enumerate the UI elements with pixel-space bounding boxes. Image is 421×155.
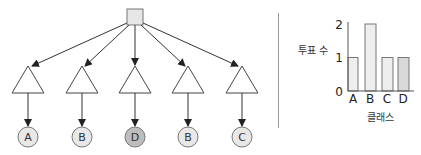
edge-root-tree-4 xyxy=(141,25,185,66)
tree-5-triangle xyxy=(226,66,258,93)
bar-D xyxy=(398,58,409,92)
tree-1-triangle xyxy=(12,66,44,93)
leaf-2-label: B xyxy=(78,131,86,144)
x-tick-B: B xyxy=(366,92,374,106)
trees xyxy=(12,66,258,93)
edge-root-tree-5 xyxy=(143,23,238,66)
x-tick-C: C xyxy=(383,92,391,106)
leaf-1-label: A xyxy=(24,131,32,144)
root-node xyxy=(127,9,143,25)
x-tick-A: A xyxy=(349,92,358,106)
leaf-4-label: B xyxy=(184,131,192,144)
tree-2-triangle xyxy=(66,66,98,93)
x-axis-title: 클래스 xyxy=(367,112,394,123)
bar-B xyxy=(365,24,376,91)
leaf-edges xyxy=(28,93,242,126)
tree-3-triangle xyxy=(119,66,151,93)
leaf-3-label: D xyxy=(131,131,139,144)
random-forest-diagram: A B D B C 투표 수 2 1 0 A B C D 클래스 xyxy=(0,0,421,155)
leaf-5-label: C xyxy=(238,131,246,144)
root-edges xyxy=(32,23,238,66)
vote-bar-chart: 투표 수 2 1 0 A B C D 클래스 xyxy=(298,18,414,123)
y-tick-1: 1 xyxy=(335,51,343,65)
leaf-labels: A B D B C xyxy=(24,131,246,144)
edge-root-tree-1 xyxy=(32,23,127,66)
edge-root-tree-2 xyxy=(85,25,129,66)
y-axis-title: 투표 수 xyxy=(298,45,328,56)
tree-4-triangle xyxy=(172,66,204,93)
bar-A xyxy=(348,58,358,92)
y-tick-0: 0 xyxy=(335,85,343,99)
bar-C xyxy=(382,58,393,92)
y-tick-2: 2 xyxy=(335,18,343,32)
x-tick-D: D xyxy=(398,92,407,106)
